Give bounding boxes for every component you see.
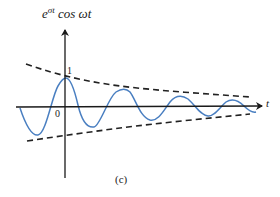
damped-oscillation-plot xyxy=(0,0,280,197)
figure-caption: (c) xyxy=(115,174,127,185)
t-axis xyxy=(16,106,262,107)
upper-envelope-curve xyxy=(26,64,250,97)
lower-envelope-curve xyxy=(27,114,250,141)
origin-label: 0 xyxy=(55,109,60,119)
t-axis-label: t xyxy=(266,98,269,109)
y-axis-label: eσt cos ωt xyxy=(42,6,91,20)
tick-label-one: 1 xyxy=(67,66,72,76)
